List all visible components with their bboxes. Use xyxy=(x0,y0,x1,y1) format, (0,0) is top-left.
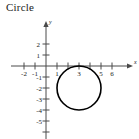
plot-area: -2 -1 1 3 5 6 2 1 -1 -2 -3 -4 -5 y x xyxy=(0,0,139,139)
y-axis-label: y xyxy=(48,19,52,25)
x-tick-label-5: 5 xyxy=(99,70,103,78)
y-tick-label-neg3: -3 xyxy=(36,96,42,104)
y-tick-label-neg1: -1 xyxy=(36,74,42,82)
x-tick-label-1: 1 xyxy=(55,70,59,78)
y-tick-label-2: 2 xyxy=(37,41,41,49)
x-tick-label-3: 3 xyxy=(77,70,81,78)
x-tick-label-neg2: -2 xyxy=(21,70,27,78)
y-tick-label-neg4: -4 xyxy=(36,107,42,115)
x-axis-label: x xyxy=(133,59,137,65)
y-axis-arrow-icon xyxy=(43,21,48,27)
circle-figure: Circle xyxy=(0,0,139,139)
y-tick-label-1: 1 xyxy=(37,52,41,60)
x-axis-arrow-icon xyxy=(127,63,133,68)
x-tick-label-6: 6 xyxy=(110,70,114,78)
y-tick-label-neg2: -2 xyxy=(36,85,42,93)
y-tick-label-neg5: -5 xyxy=(36,118,42,126)
